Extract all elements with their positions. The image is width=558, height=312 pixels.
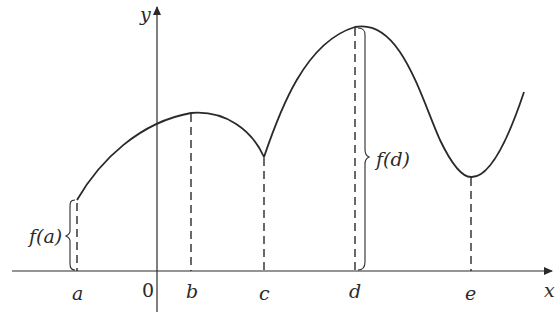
origin-label: 0	[142, 281, 154, 300]
point-label-d: d	[349, 282, 361, 301]
point-label-c: c	[259, 284, 270, 303]
function-curve	[77, 26, 524, 200]
brace-fd	[358, 28, 369, 270]
graph-canvas	[0, 0, 558, 312]
y-axis-label: y	[140, 5, 151, 24]
annotation-fa: f(a)	[29, 227, 62, 246]
point-label-e: e	[465, 284, 476, 303]
point-label-b: b	[186, 282, 198, 301]
point-label-a: a	[72, 284, 83, 303]
x-axis-label: x	[544, 281, 555, 300]
brace-fa	[66, 200, 75, 270]
annotation-fd: f(d)	[376, 150, 410, 169]
